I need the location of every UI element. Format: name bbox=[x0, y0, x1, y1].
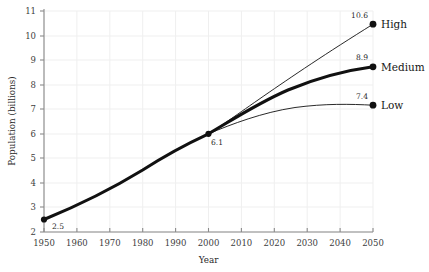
x-tick-label-1950: 1950 bbox=[33, 238, 55, 248]
y-tick-label-5: 5 bbox=[31, 153, 36, 163]
y-axis-title: Population (billions) bbox=[7, 76, 17, 166]
population-projection-chart: 2 3 4 5 6 7 8 9 10 11 1950 1960 1970 198… bbox=[0, 0, 429, 272]
y-tick-label-4: 4 bbox=[31, 178, 36, 188]
y-tick-label-11: 11 bbox=[25, 6, 36, 16]
y-tick-label-6: 6 bbox=[31, 129, 36, 139]
x-tick-label-2010: 2010 bbox=[231, 238, 253, 248]
marker-1950 bbox=[41, 216, 47, 222]
y-tick-label-9: 9 bbox=[31, 55, 36, 65]
chart-background bbox=[0, 0, 429, 272]
y-tick-label-7: 7 bbox=[31, 104, 36, 114]
value-label-medium: 8.9 bbox=[356, 53, 368, 62]
y-tick-label-8: 8 bbox=[31, 80, 36, 90]
value-label-high: 10.6 bbox=[351, 11, 368, 20]
marker-2000 bbox=[205, 131, 211, 137]
x-tick-label-2030: 2030 bbox=[296, 238, 318, 248]
value-label-low: 7.4 bbox=[356, 92, 368, 101]
y-tick-label-10: 10 bbox=[25, 31, 36, 41]
x-tick-label-2050: 2050 bbox=[362, 238, 384, 248]
series-label-medium: Medium bbox=[381, 61, 425, 73]
x-tick-label-2020: 2020 bbox=[263, 238, 285, 248]
x-tick-label-1990: 1990 bbox=[165, 238, 187, 248]
value-label-2000: 6.1 bbox=[211, 138, 223, 147]
x-tick-label-1980: 1980 bbox=[132, 238, 154, 248]
x-tick-label-2040: 2040 bbox=[329, 238, 351, 248]
marker-2050-medium bbox=[370, 63, 377, 70]
marker-2050-high bbox=[370, 21, 377, 28]
y-tick-label-2: 2 bbox=[31, 227, 36, 237]
series-label-low: Low bbox=[381, 99, 403, 111]
x-tick-label-1970: 1970 bbox=[99, 238, 121, 248]
y-tick-label-3: 3 bbox=[31, 202, 36, 212]
series-label-high: High bbox=[381, 18, 407, 30]
value-label-1950: 2.5 bbox=[52, 222, 64, 231]
chart-svg: 2 3 4 5 6 7 8 9 10 11 1950 1960 1970 198… bbox=[0, 0, 429, 272]
marker-2050-low bbox=[370, 102, 377, 109]
x-axis-title: Year bbox=[198, 255, 219, 265]
x-tick-label-1960: 1960 bbox=[66, 238, 88, 248]
x-tick-label-2000: 2000 bbox=[198, 238, 220, 248]
x-axis-tick-labels: 1950 1960 1970 1980 1990 2000 2010 2020 … bbox=[33, 238, 384, 248]
